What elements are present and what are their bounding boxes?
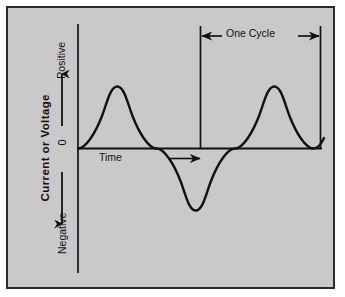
one-cycle-annotation-label: One Cycle [226,28,275,39]
x-axis-title: Time [99,152,122,163]
waveform-figure: Current or Voltage Positive Negative 0 T… [0,0,345,297]
waveform-graphics [0,0,345,297]
y-axis-positive-label: Positive [56,25,67,95]
y-axis-negative-label: Negative [57,196,68,270]
origin-label: 0 [57,136,68,150]
y-axis-title: Current or Voltage [40,88,52,208]
